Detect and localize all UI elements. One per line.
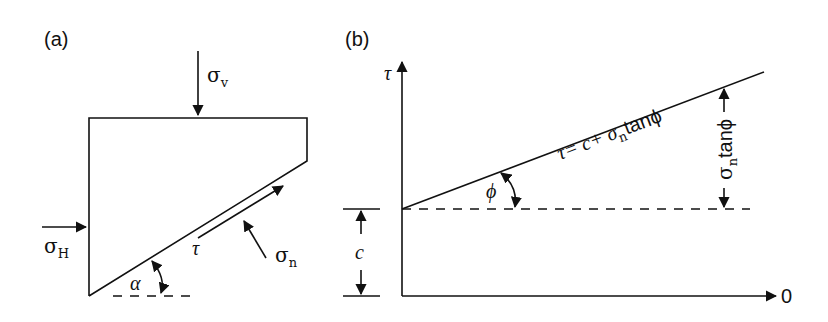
tau-axis-label: τ [384, 62, 392, 84]
x-axis-origin-label: 0 [781, 285, 792, 307]
sigma-h-label: σH [44, 234, 69, 261]
envelope-equation: τ= c+ σntanϕ [554, 104, 666, 167]
cohesion-label: c [355, 241, 364, 263]
soil-block [89, 118, 307, 296]
sigma-n-arrow-icon [244, 221, 266, 258]
tau-label: τ [192, 237, 200, 259]
panel-b: (b) τ 0 τ= c+ σntanϕ ϕ c σntanϕ [343, 28, 792, 307]
sigma-v-label: σv [207, 63, 229, 90]
alpha-label: α [130, 272, 141, 294]
phi-label: ϕ [486, 180, 496, 203]
tau-arrow-icon [198, 186, 283, 238]
panel-a: (a) σv σH τ σn α [42, 28, 307, 296]
svg-text:τ= c+ σntanϕ: τ= c+ σntanϕ [554, 104, 666, 167]
phi-angle-arc-icon [501, 173, 515, 207]
sigma-n-label: σn [275, 243, 298, 270]
alpha-angle-arc-icon [152, 261, 162, 293]
rise-label: σntanϕ [713, 119, 740, 180]
mohr-coulomb-figure: (a) σv σH τ σn α (b) τ 0 [0, 0, 828, 322]
svg-text:σntanϕ: σntanϕ [713, 119, 740, 180]
panel-a-label: (a) [44, 28, 68, 50]
panel-b-label: (b) [345, 28, 369, 50]
